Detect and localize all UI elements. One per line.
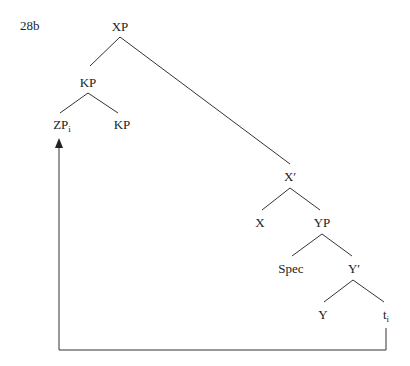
node-ybar: Y′	[348, 262, 360, 276]
node-xbar: X′	[284, 170, 296, 184]
trace-index: i	[387, 314, 390, 324]
node-yp: YP	[314, 216, 331, 230]
arrow-head-icon	[55, 138, 63, 148]
example-number: 28b	[20, 18, 40, 34]
node-zp: ZPi	[53, 118, 71, 132]
node-trace: ti	[383, 308, 389, 322]
tree-branches	[0, 0, 410, 366]
node-kp-lower: KP	[114, 118, 131, 132]
node-spec: Spec	[278, 262, 303, 276]
node-kp-upper: KP	[80, 76, 97, 90]
zp-label: ZP	[53, 117, 68, 132]
node-x: X	[255, 216, 264, 230]
node-xp: XP	[112, 20, 129, 34]
zp-index: i	[68, 124, 71, 134]
node-y: Y	[318, 308, 327, 322]
